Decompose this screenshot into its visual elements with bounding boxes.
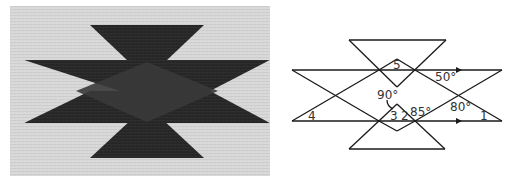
angle-3-label: 3	[390, 109, 398, 123]
angle-4-label: 4	[308, 109, 316, 123]
angle-90-label: 90°	[377, 88, 398, 102]
angle-50-label: 50°	[435, 70, 456, 84]
angle-80-label: 80°	[450, 100, 471, 114]
rug-photo	[10, 6, 270, 176]
geometry-diagram: 5 50° 90° 80° 85° 4 3 2 1	[280, 0, 518, 184]
upper-arrow-icon	[456, 67, 462, 73]
angle-5-label: 5	[393, 58, 401, 72]
angle-85-label: 85°	[410, 105, 431, 119]
lower-arrow-icon	[456, 118, 462, 124]
angle-2-label: 2	[401, 109, 409, 123]
angle-1-label: 1	[480, 109, 488, 123]
